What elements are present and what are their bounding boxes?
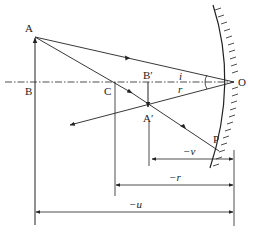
label-p: P [213, 133, 219, 145]
ray-a-through-c [35, 37, 132, 93]
label-dim-r: −r [169, 171, 181, 183]
label-angle-r: r [178, 83, 183, 95]
label-b: B [25, 85, 32, 97]
label-a: A [25, 22, 33, 34]
label-b-prime: B′ [143, 69, 153, 81]
label-a-prime: A′ [143, 112, 153, 124]
ray-a-to-o [35, 37, 234, 82]
label-dim-u: −u [129, 198, 142, 210]
label-o: O [238, 76, 246, 88]
label-c: C [104, 85, 111, 97]
label-angle-i: i [179, 70, 182, 82]
label-dim-v: −v [183, 145, 195, 157]
optics-diagram: A B C B′ A′ O P i r −v −r −u [0, 0, 257, 233]
